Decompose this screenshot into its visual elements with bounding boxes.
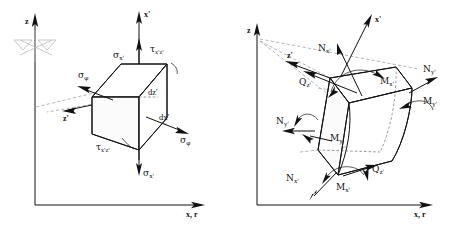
left-xr-axis: x, r [35, 202, 205, 219]
symmetry-axis-marker [14, 30, 56, 62]
dx-prime-dimension: dx' [159, 112, 170, 122]
right-z-prime-axis: z' [285, 51, 330, 78]
left-z-axis: z [25, 13, 38, 205]
sigma-x-prime-top-label: σx' [113, 50, 125, 61]
left-z-prime-label: z' [63, 114, 69, 123]
sigma-x-prime-top-arrow: σx' [113, 38, 142, 64]
dx-prime-label: dx' [159, 112, 170, 122]
left-panel-stress-element: z x, r x' z' [14, 10, 205, 219]
n-y-prime-left-label: Ny' [276, 116, 289, 128]
n-x-prime-top-label: Nx' [318, 43, 331, 54]
right-panel-stress-resultants: z x, r z' x' [247, 14, 438, 219]
sigma-x-prime-bottom-label: σx' [143, 168, 155, 179]
right-xr-axis: x, r [257, 202, 433, 219]
n-y-prime-right-label: Ny' [423, 64, 436, 76]
n-x-prime-bottom-label: Nx' [286, 173, 299, 184]
left-x-prime-label: x' [144, 10, 150, 19]
engineering-figure: z x, r x' z' [0, 0, 453, 228]
n-y-prime-right-arrow: Ny' [409, 64, 438, 93]
left-cube [92, 64, 167, 150]
right-x-prime-label: x' [375, 15, 381, 24]
tau-xz-prime-top-label: τx'z' [150, 44, 164, 55]
q-z-prime-bottom-label: Qz' [372, 164, 385, 175]
left-xr-axis-label: x, r [186, 210, 198, 219]
tau-xz-prime-bottom-label: τx'z' [96, 142, 110, 153]
m-x-prime-bottom-label: Mx' [336, 182, 351, 193]
right-z-axis: z [247, 23, 260, 205]
sigma-phi-right-label: σφ [180, 135, 190, 147]
sigma-phi-left-label: σφ [78, 70, 88, 82]
dz-prime-label: dz' [148, 87, 158, 97]
left-z-axis-label: z [25, 17, 29, 26]
right-z-prime-label: z' [287, 51, 293, 60]
m-y-prime-right-label: My' [423, 96, 438, 108]
q-z-prime-top-label: Qz' [299, 77, 312, 88]
right-z-axis-label: z [247, 26, 251, 35]
sigma-x-prime-bottom-arrow: σx' [136, 150, 155, 179]
right-xr-axis-label: x, r [414, 210, 426, 219]
